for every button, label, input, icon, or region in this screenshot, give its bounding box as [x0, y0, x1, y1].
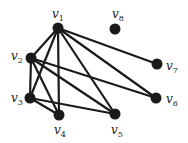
node-v2 [26, 53, 37, 64]
edge-v1-v7 [58, 28, 157, 64]
node-label-v8: v8 [112, 8, 124, 23]
node-label-v7: v7 [166, 60, 178, 75]
edge-v2-v6 [31, 58, 156, 98]
node-label-v4: v4 [54, 124, 66, 139]
node-v4 [54, 110, 65, 121]
edge-v1-v4 [58, 28, 59, 115]
node-label-v3: v3 [11, 92, 23, 107]
edge-v1-v5 [58, 28, 115, 114]
node-v1 [53, 23, 64, 34]
graph-diagram: v1v2v3v4v5v6v7v8 [0, 0, 188, 143]
node-v6 [151, 93, 162, 104]
node-v7 [152, 59, 163, 70]
edge-v2-v3 [30, 58, 31, 98]
node-v8 [110, 24, 121, 35]
graph-canvas [0, 0, 188, 143]
edge-v1-v6 [58, 28, 156, 98]
node-label-v2: v2 [11, 50, 23, 65]
node-label-v1: v1 [52, 8, 64, 23]
node-v3 [25, 93, 36, 104]
node-label-v5: v5 [111, 124, 123, 139]
edge-v1-v2 [31, 28, 58, 58]
node-label-v6: v6 [166, 93, 178, 108]
node-v5 [110, 109, 121, 120]
